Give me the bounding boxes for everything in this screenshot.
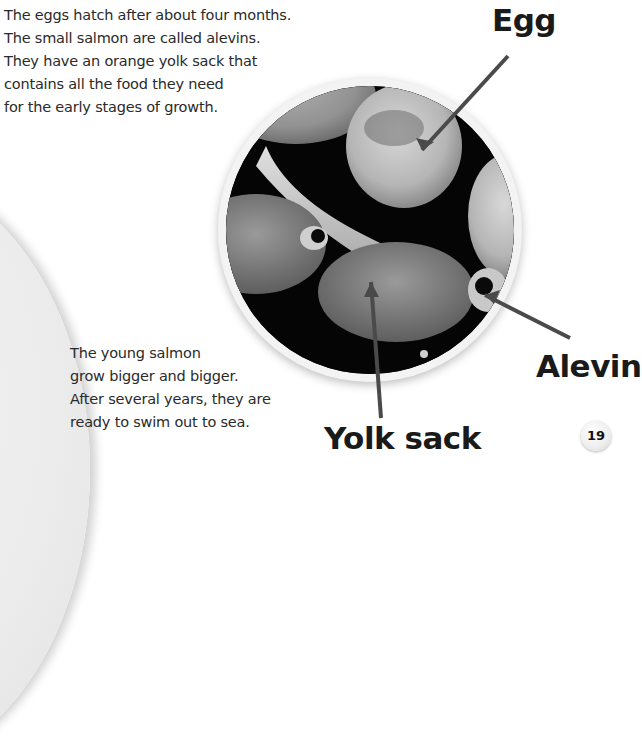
decorative-page-curl (0, 170, 90, 738)
text-line: After several years, they are (70, 388, 271, 411)
text-line: for the early stages of growth. (4, 96, 291, 119)
label-alevin: Alevin (536, 348, 642, 384)
text-line: The young salmon (70, 342, 271, 365)
photo-illustration (226, 86, 514, 374)
page-number-badge: 19 (581, 421, 611, 451)
text-line: The eggs hatch after about four months. (4, 4, 291, 27)
label-egg: Egg (492, 2, 556, 38)
growth-paragraph: The young salmon grow bigger and bigger.… (70, 342, 271, 434)
text-line: grow bigger and bigger. (70, 365, 271, 388)
text-line: contains all the food they need (4, 73, 291, 96)
intro-paragraph: The eggs hatch after about four months. … (4, 4, 291, 119)
text-line: The small salmon are called alevins. (4, 27, 291, 50)
salmon-alevin-photo (226, 86, 514, 374)
text-line: They have an orange yolk sack that (4, 50, 291, 73)
label-yolk-sack: Yolk sack (324, 420, 481, 456)
text-line: ready to swim out to sea. (70, 411, 271, 434)
